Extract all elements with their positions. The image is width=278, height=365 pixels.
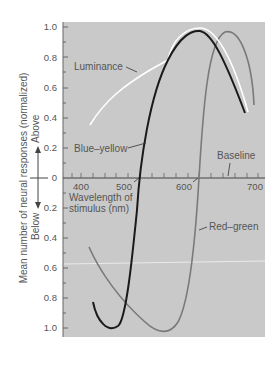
svg-text:500: 500 (116, 181, 132, 192)
x-axis-label-line2: stimulus (nm) (69, 203, 129, 214)
red-green-label: Red–green (209, 221, 258, 232)
svg-text:0: 0 (52, 172, 57, 183)
arrow-up-icon (35, 146, 41, 153)
x-axis-label-line1: Wavelength of (69, 192, 133, 203)
arrow-down-icon (35, 202, 41, 209)
svg-text:0.6: 0.6 (44, 82, 57, 93)
chart: 1.0 0.8 0.6 0.4 0.2 0 0.2 0.4 0.6 0.8 1.… (0, 0, 278, 365)
svg-text:0.4: 0.4 (44, 232, 57, 243)
blue-yellow-label: Blue–yellow (74, 143, 128, 154)
svg-text:700: 700 (247, 181, 263, 192)
svg-text:0.4: 0.4 (44, 112, 57, 123)
luminance-label: Luminance (74, 61, 123, 72)
svg-text:0.2: 0.2 (44, 202, 57, 213)
svg-text:0.2: 0.2 (44, 142, 57, 153)
baseline-label: Baseline (217, 150, 256, 161)
svg-text:0.8: 0.8 (44, 52, 57, 63)
svg-text:1.0: 1.0 (44, 322, 57, 333)
y-axis-label: Mean number of neural responses (normali… (18, 73, 29, 284)
below-label: Below (30, 212, 41, 240)
svg-text:400: 400 (73, 181, 89, 192)
y-tick-labels: 1.0 0.8 0.6 0.4 0.2 0 0.2 0.4 0.6 0.8 1.… (44, 21, 57, 333)
svg-text:1.0: 1.0 (44, 21, 57, 32)
svg-text:0.6: 0.6 (44, 262, 57, 273)
svg-text:0.8: 0.8 (44, 292, 57, 303)
svg-text:600: 600 (176, 181, 192, 192)
above-label: Above (30, 114, 41, 143)
